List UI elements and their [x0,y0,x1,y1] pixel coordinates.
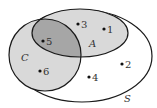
point-dot-icon [120,62,123,65]
element-label: 5 [46,36,52,47]
element-label: 6 [43,66,49,77]
point-dot-icon [102,27,105,30]
set-c-label: C [21,52,29,63]
point-dot-icon [76,22,79,25]
element-label: 1 [107,24,113,35]
point-dot-icon [38,69,41,72]
set-s-label: S [124,93,131,104]
venn-diagram: A C S 1 2 3 4 5 6 [0,0,157,108]
element-label: 4 [92,72,98,83]
set-a-label: A [88,38,96,49]
element-label: 3 [81,19,87,30]
element-label: 2 [125,59,131,70]
point-dot-icon [87,75,90,78]
point-dot-icon [41,39,44,42]
